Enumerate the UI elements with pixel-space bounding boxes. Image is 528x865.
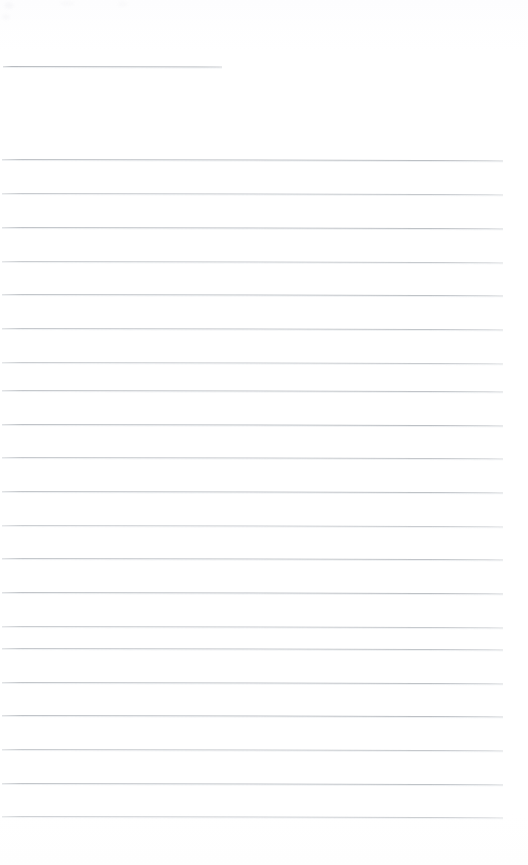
- ruled-line: [2, 816, 503, 818]
- ruled-line: [2, 328, 503, 330]
- ruled-line: [2, 648, 503, 650]
- ruled-line: [2, 525, 503, 527]
- ruled-line: [2, 424, 503, 426]
- scan-speck: [118, 1, 127, 7]
- ruled-line: [2, 491, 503, 493]
- scan-artifact-layer: [0, 0, 528, 40]
- ruled-line: [2, 390, 503, 392]
- ruled-line: [2, 227, 503, 229]
- title-rule: [3, 66, 222, 67]
- ruled-line: [2, 294, 503, 296]
- ruled-line: [2, 193, 503, 195]
- ruled-line: [2, 362, 503, 364]
- ruled-line: [2, 715, 503, 717]
- ruled-line: [2, 261, 503, 263]
- paper-surface: [0, 0, 528, 865]
- ruled-line: [2, 159, 503, 161]
- scan-speck: [60, 1, 74, 6]
- scan-speck: [2, 14, 10, 20]
- scanned-page: [0, 0, 528, 865]
- ruled-line: [2, 592, 503, 594]
- ruled-line: [2, 749, 503, 751]
- ruled-line: [2, 783, 503, 785]
- ruled-line: [2, 558, 503, 560]
- ruled-line: [2, 457, 503, 459]
- scan-speck: [4, 2, 14, 9]
- ruled-line: [2, 626, 503, 628]
- ruled-line: [2, 682, 503, 684]
